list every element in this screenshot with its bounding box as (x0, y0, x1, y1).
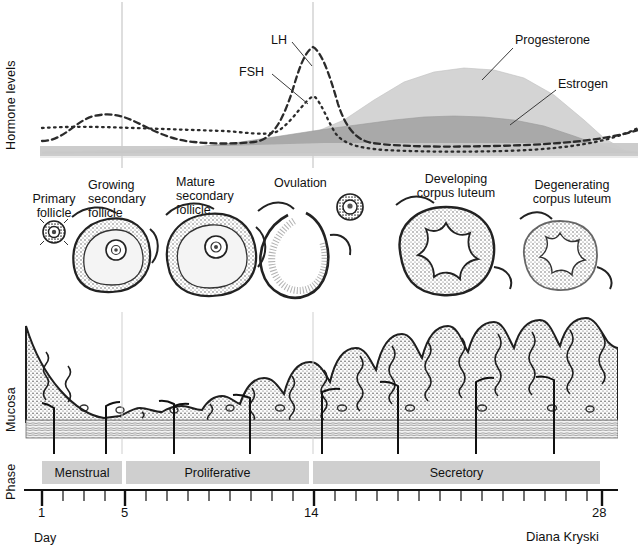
artist-credit: Diana Kryski (526, 529, 599, 544)
mature-secondary-follicle-illustration (166, 204, 265, 296)
phase-segment-proliferative[interactable]: Proliferative (126, 461, 309, 484)
estrogen-label: Estrogen (558, 77, 608, 91)
phase-segment-secretory[interactable]: Secretory (313, 461, 600, 484)
fsh-label: FSH (239, 65, 264, 79)
uterine-mucosa-illustration (24, 312, 618, 454)
hormone-chart-svg: LH FSH Progesterone Estrogen (24, 0, 638, 170)
hormone-levels-axis-label: Hormone levels (4, 30, 18, 150)
mucosa-axis-label: Mucosa (4, 352, 18, 432)
day-tick-label-1: 1 (38, 505, 45, 520)
lh-label: LH (271, 33, 287, 47)
hormone-chart: LH FSH Progesterone Estrogen (24, 0, 638, 170)
progesterone-label: Progesterone (515, 33, 590, 47)
growing-secondary-follicle-illustration (72, 207, 158, 292)
primary-follicle-illustration (40, 219, 68, 245)
phase-axis-label: Phase (4, 450, 18, 500)
day-tick-label-14: 14 (304, 505, 318, 520)
ovary-stage-illustrations (0, 175, 638, 315)
developing-corpus-luteum-illustration (396, 197, 511, 296)
day-tick-label-28: 28 (592, 505, 606, 520)
degenerating-corpus-luteum-illustration (520, 212, 611, 290)
menstrual-cycle-figure: Hormone levels LH FSH Progesterone (0, 0, 638, 553)
phase-segment-menstrual[interactable]: Menstrual (42, 461, 122, 484)
day-axis-ticks (42, 490, 602, 506)
day-tick-label-5: 5 (121, 505, 128, 520)
ovulation-illustration (258, 194, 363, 298)
day-axis (24, 486, 618, 512)
day-axis-title: Day (34, 531, 56, 545)
